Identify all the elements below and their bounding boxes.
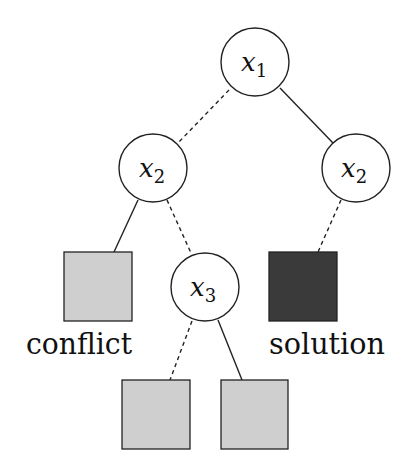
edge-x2-right-solution — [318, 200, 341, 252]
edge-x2-left-x3 — [167, 200, 191, 253]
leaf-bottom-right-box — [221, 380, 288, 449]
edge-x1-x2-left — [178, 90, 229, 143]
edge-x3-bottom-left — [170, 321, 192, 380]
edge-x1-x2-right — [280, 88, 333, 143]
edge-x3-bottom-right — [218, 320, 242, 380]
node-x1: x1 — [221, 28, 289, 96]
node-x3: x3 — [171, 253, 239, 321]
leaf-solution-box — [269, 252, 337, 321]
search-tree-diagram: x1 x2 x2 x3 conflict solution — [0, 0, 412, 476]
solution-label: solution — [269, 327, 385, 361]
edge-x2-left-conflict — [114, 200, 138, 252]
node-x2-right: x2 — [322, 134, 390, 202]
leaf-conflict-box — [64, 252, 132, 321]
leaf-bottom-left-box — [122, 380, 190, 449]
node-x2-left: x2 — [119, 134, 187, 202]
conflict-label: conflict — [26, 327, 132, 361]
